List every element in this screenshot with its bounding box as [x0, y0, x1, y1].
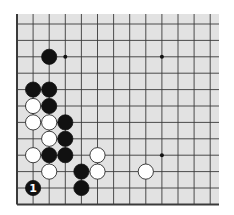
white-stone: [25, 98, 40, 113]
go-board: 1: [0, 0, 234, 215]
black-stone: [42, 148, 57, 163]
black-stone: [42, 98, 57, 113]
black-stone: [58, 115, 73, 130]
white-stone: [90, 148, 105, 163]
black-stone: [58, 131, 73, 146]
star-point: [63, 55, 67, 59]
white-stone: [90, 164, 105, 179]
star-point: [160, 55, 164, 59]
white-stone: [25, 148, 40, 163]
white-stone: [25, 115, 40, 130]
star-point: [160, 153, 164, 157]
white-stone: [138, 164, 153, 179]
black-stone: [25, 82, 40, 97]
black-stone: [74, 164, 89, 179]
black-stone: [42, 49, 57, 64]
black-stone: [42, 82, 57, 97]
white-stone: [42, 131, 57, 146]
black-stone: [74, 180, 89, 195]
white-stone: [42, 115, 57, 130]
black-stone: [58, 148, 73, 163]
white-stone: [42, 164, 57, 179]
move-number-label: 1: [29, 182, 37, 195]
black-stone: 1: [25, 180, 40, 195]
